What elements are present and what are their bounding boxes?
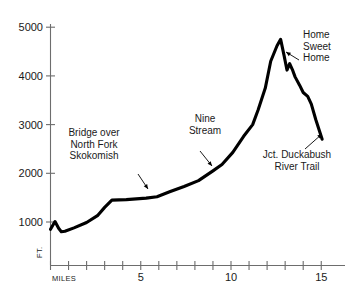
annotations-layer: Bridge overNorth ForkSkokomishNineStream… <box>68 29 331 189</box>
annotation-bridge: Bridge overNorth ForkSkokomish <box>68 127 148 189</box>
x-tick-label: 5 <box>138 271 144 283</box>
x-axis-caption: MILES <box>52 274 76 283</box>
annotation-label-bridge: Bridge overNorth ForkSkokomish <box>68 127 120 161</box>
x-tick-labels: 51015 <box>138 271 328 283</box>
y-tick-label: 1000 <box>19 216 43 228</box>
x-axis-group: 51015 MILES <box>51 261 346 283</box>
annotation-nine-stream: NineStream <box>189 113 221 166</box>
y-tick-label: 5000 <box>19 21 43 33</box>
annotation-arrowhead-bridge <box>144 184 148 189</box>
annotation-label-home-sweet-home: HomeSweetHome <box>303 29 331 63</box>
y-tick-label: 2000 <box>19 167 43 179</box>
x-tick-label: 15 <box>315 271 327 283</box>
y-axis-caption: FT. <box>35 247 44 258</box>
y-tick-labels: 10002000300040005000 <box>19 21 43 228</box>
y-tick-label: 4000 <box>19 70 43 82</box>
annotation-label-nine-stream: NineStream <box>189 113 221 136</box>
x-tick-label: 10 <box>225 271 237 283</box>
elevation-profile-chart: 10002000300040005000 FT. 51015 MILES Bri… <box>0 0 357 301</box>
chart-canvas: 10002000300040005000 FT. 51015 MILES Bri… <box>0 0 357 301</box>
annotation-label-jct-duckabush: Jct. DuckabushRiver Trail <box>263 149 331 172</box>
y-tick-label: 3000 <box>19 119 43 131</box>
annotation-home-sweet-home: HomeSweetHome <box>286 29 331 63</box>
